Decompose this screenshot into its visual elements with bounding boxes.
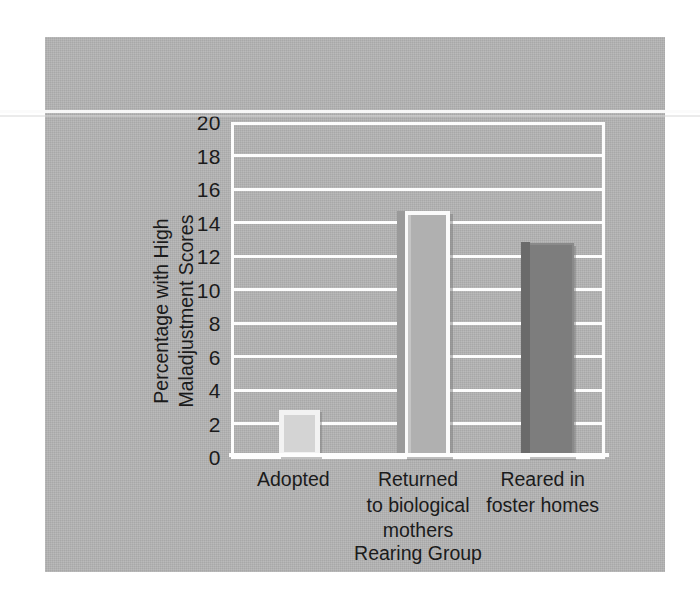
x-category-label-line: to biological bbox=[356, 493, 481, 519]
y-tick-label: 16 bbox=[197, 179, 221, 200]
x-category-label-line: mothers bbox=[356, 518, 481, 544]
bar bbox=[279, 410, 320, 457]
x-axis-title: Rearing Group bbox=[231, 542, 605, 565]
x-axis-baseline bbox=[229, 453, 609, 457]
scan-artifact-line bbox=[0, 110, 700, 113]
plot-area bbox=[231, 122, 605, 457]
y-axis-title-line-1: Percentage with High bbox=[149, 218, 174, 403]
x-category-label-line: Reared in bbox=[480, 467, 605, 493]
y-tick-label: 8 bbox=[209, 313, 221, 334]
bar bbox=[404, 211, 450, 457]
x-category-label-line: foster homes bbox=[480, 493, 605, 519]
y-tick-label: 2 bbox=[209, 413, 221, 434]
y-tick-label: 18 bbox=[197, 145, 221, 166]
y-tick-label: 0 bbox=[209, 447, 221, 468]
y-tick-label: 4 bbox=[209, 380, 221, 401]
scanned-page: Percentage with High Maladjustment Score… bbox=[0, 0, 700, 603]
x-category-label-line: Adopted bbox=[231, 467, 356, 493]
scan-artifact-line-shadow bbox=[0, 115, 700, 117]
y-tick-label: 12 bbox=[197, 246, 221, 267]
y-tick-label: 6 bbox=[209, 346, 221, 367]
y-axis-tick-labels: 20181614121086420 bbox=[173, 122, 221, 457]
bar bbox=[528, 243, 574, 457]
x-category-label-line: Returned bbox=[356, 467, 481, 493]
figure-panel: Percentage with High Maladjustment Score… bbox=[45, 37, 665, 572]
y-tick-label: 10 bbox=[197, 279, 221, 300]
y-tick-label: 14 bbox=[197, 212, 221, 233]
